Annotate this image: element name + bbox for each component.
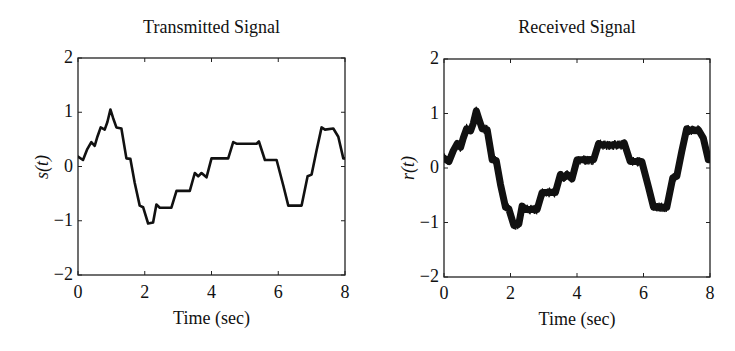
plot-area	[0, 0, 735, 351]
x-tick-label: 0	[440, 283, 449, 304]
x-tick-label: 6	[639, 283, 648, 304]
x-tick-label: 8	[706, 283, 715, 304]
figure: Transmitted Signal s(t) Time (sec) 02468…	[0, 0, 735, 351]
y-tick-label: −2	[420, 266, 439, 287]
y-tick-label: 2	[430, 48, 439, 69]
signal-line	[444, 107, 710, 230]
y-tick-label: −1	[420, 211, 439, 232]
x-tick-label: 4	[573, 283, 582, 304]
y-tick-label: 1	[430, 102, 439, 123]
y-tick-label: 0	[430, 157, 439, 178]
x-tick-label: 2	[506, 283, 515, 304]
